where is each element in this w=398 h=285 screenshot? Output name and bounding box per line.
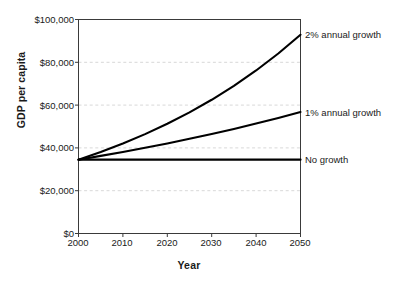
plot-frame: [79, 20, 301, 234]
series-lines: [79, 35, 301, 160]
x-axis-tick-marks: [79, 234, 301, 238]
gridlines: [79, 20, 301, 191]
y-axis-tick-marks: [75, 20, 79, 234]
gdp-growth-chart: GDP per capita $100,000 $80,000 $60,000 …: [0, 0, 398, 285]
chart-canvas: [0, 0, 398, 285]
